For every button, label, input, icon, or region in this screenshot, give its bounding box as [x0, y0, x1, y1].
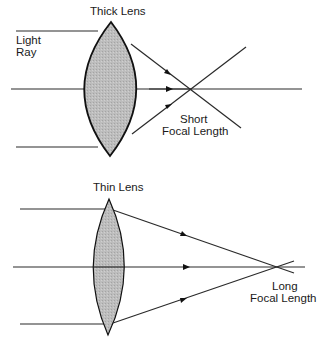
- thick-lens-group: Thick Lens Light Ray Short Focal Length: [11, 5, 302, 156]
- long-focal-label-line1: Long: [272, 280, 298, 292]
- arrow-icon: [183, 264, 190, 270]
- short-focal-label-line2: Focal Length: [162, 125, 229, 137]
- arrow-icon: [180, 298, 187, 303]
- light-ray-label-line2: Ray: [16, 46, 37, 58]
- thin-top-refracted-ray: [113, 210, 294, 273]
- lens-diagram: Thick Lens Light Ray Short Focal Length …: [0, 0, 329, 343]
- thick-lens-title: Thick Lens: [90, 5, 146, 17]
- light-ray-label-line1: Light: [16, 34, 42, 46]
- arrow-icon: [166, 86, 173, 92]
- thick-lens-shape: [84, 22, 136, 156]
- long-focal-label-line2: Focal Length: [250, 292, 317, 304]
- arrow-icon: [180, 231, 187, 236]
- thin-lens-group: Thin Lens Long Focal Length: [13, 181, 317, 335]
- short-focal-label-line1: Short: [180, 113, 208, 125]
- thin-lens-title: Thin Lens: [93, 181, 144, 193]
